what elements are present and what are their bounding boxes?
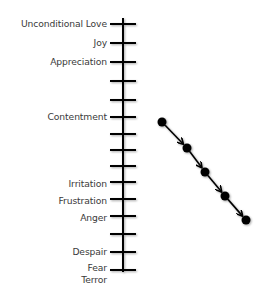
scale-label-anger: Anger bbox=[80, 212, 107, 223]
scale-label-unconditional-love: Unconditional Love bbox=[21, 18, 107, 29]
path-dot bbox=[158, 118, 167, 127]
scale-label-terror: Terror bbox=[81, 274, 107, 285]
scale-label-contentment: Contentment bbox=[48, 111, 107, 122]
path-dot bbox=[201, 168, 210, 177]
scale-label-irritation: Irritation bbox=[69, 178, 108, 189]
arrow-icon bbox=[165, 125, 183, 144]
emotional-scale-diagram bbox=[0, 0, 265, 301]
scale-label-despair: Despair bbox=[72, 246, 107, 257]
path-dot bbox=[242, 216, 251, 225]
path-dot bbox=[183, 144, 192, 153]
scale-label-joy: Joy bbox=[94, 37, 107, 48]
scale-label-frustration: Frustration bbox=[58, 195, 107, 206]
arrow-icon bbox=[190, 152, 202, 168]
emotion-progression-path bbox=[158, 118, 251, 225]
path-dot bbox=[221, 192, 230, 201]
scale-axis bbox=[110, 18, 136, 272]
scale-label-appreciation: Appreciation bbox=[50, 56, 107, 67]
arrow-icon bbox=[228, 199, 242, 215]
arrow-icon bbox=[208, 175, 222, 191]
scale-label-fear: Fear bbox=[88, 262, 107, 273]
